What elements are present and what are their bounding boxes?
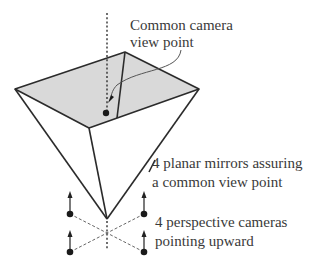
arrow-up-icon <box>68 191 73 198</box>
viewpoint-label-line2: view point <box>130 34 195 50</box>
camera-dot <box>141 211 148 218</box>
mirrors-label-line2: a common view point <box>152 174 283 190</box>
mirrors-label-line1: 4 planar mirrors assuring <box>152 155 303 171</box>
arrow-up-icon <box>68 230 73 237</box>
camera-top-left <box>67 191 74 217</box>
camera-bottom-right <box>141 230 148 255</box>
camera-top-right <box>141 191 148 217</box>
cameras-label-line2: pointing upward <box>155 233 254 249</box>
camera-dot <box>141 249 148 256</box>
camera-bottom-left <box>67 230 74 255</box>
camera-dot <box>67 249 74 256</box>
common-viewpoint-dot <box>103 110 109 116</box>
camera-dot <box>67 211 74 218</box>
arrow-up-icon <box>142 230 147 237</box>
viewpoint-label-line1: Common camera <box>130 17 233 33</box>
pyramid-mirror-diagram: Common camera view point 4 planar mirror… <box>0 0 313 270</box>
cameras-label-line1: 4 perspective cameras <box>155 214 288 230</box>
arrow-up-icon <box>142 191 147 198</box>
